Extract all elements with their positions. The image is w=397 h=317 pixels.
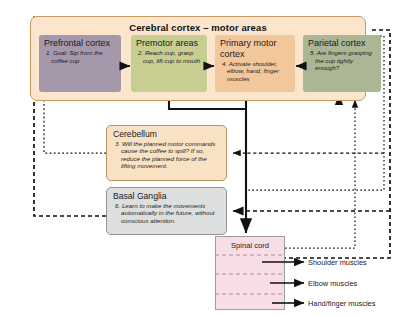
connector-layer-front [0, 0, 397, 317]
diagram-canvas: Cerebral cortex – motor areas Prefrontal… [0, 0, 397, 317]
